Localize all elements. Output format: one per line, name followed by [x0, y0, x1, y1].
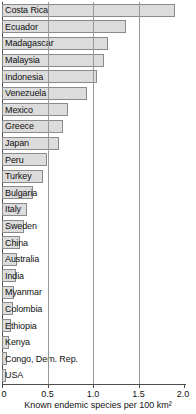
bar-category-label: Sweden: [5, 219, 37, 233]
x-tick-label: 2.0: [177, 389, 190, 399]
bar-series: Costa RicaEcuadorMadagascarMalaysiaIndon…: [2, 2, 186, 384]
bar-category-label: Venezuela: [5, 86, 46, 100]
bar-category-label: Colombia: [5, 302, 42, 316]
bar-row: Myanmar: [2, 284, 186, 301]
bar-row: Australia: [2, 251, 186, 268]
x-tick: [2, 384, 3, 388]
bar-category-label: China: [5, 236, 28, 250]
x-tick: [139, 384, 140, 388]
x-tick-label: 0.5: [41, 389, 54, 399]
bar-row: Ecuador: [2, 19, 186, 36]
bar-category-label: Kenya: [5, 335, 30, 349]
bar-category-label: Madagascar: [5, 36, 54, 50]
bar-row: USA: [2, 367, 186, 384]
bar-category-label: Congo, Dem. Rep.: [5, 352, 78, 366]
bar-row: China: [2, 234, 186, 251]
bar-row: Kenya: [2, 334, 186, 351]
bar-category-label: Ethiopia: [5, 319, 37, 333]
bar-category-label: Myanmar: [5, 285, 42, 299]
plot-area: Costa RicaEcuadorMadagascarMalaysiaIndon…: [2, 2, 186, 384]
bar-category-label: USA: [5, 368, 23, 382]
bar-row: Mexico: [2, 102, 186, 119]
bar-category-label: Bulgaria: [5, 186, 37, 200]
bar-category-label: Japan: [5, 136, 29, 150]
x-axis-line: [2, 384, 186, 385]
x-tick-label: 0: [1, 389, 6, 399]
bar-category-label: Costa Rica: [5, 3, 48, 17]
bar-row: Indonesia: [2, 68, 186, 85]
bar-category-label: India: [5, 269, 24, 283]
bar-category-label: Turkey: [5, 169, 32, 183]
x-tick: [184, 384, 185, 388]
bar-category-label: Italy: [5, 202, 21, 216]
bar-row: Greece: [2, 118, 186, 135]
bar-category-label: Mexico: [5, 103, 33, 117]
x-tick-label: 1.5: [132, 389, 145, 399]
bar-category-label: Ecuador: [5, 20, 38, 34]
bar-row: Peru: [2, 151, 186, 168]
endemic-species-bar-chart: Costa RicaEcuadorMadagascarMalaysiaIndon…: [0, 0, 196, 414]
bar-category-label: Greece: [5, 119, 34, 133]
bar-row: Japan: [2, 135, 186, 152]
bar-category-label: Peru: [5, 153, 24, 167]
bar-row: Malaysia: [2, 52, 186, 69]
x-tick-label: 1.0: [87, 389, 100, 399]
bar-row: Madagascar: [2, 35, 186, 52]
bar-row: Turkey: [2, 168, 186, 185]
bar-row: Congo, Dem. Rep.: [2, 350, 186, 367]
bar-row: India: [2, 268, 186, 285]
bar-row: Ethiopia: [2, 317, 186, 334]
bar-row: Sweden: [2, 218, 186, 235]
bar-row: Italy: [2, 201, 186, 218]
bar-category-label: Australia: [5, 252, 39, 266]
bar-row: Colombia: [2, 301, 186, 318]
x-axis-title: Known endemic species per 100 km²: [0, 400, 196, 410]
x-tick: [48, 384, 49, 388]
bar-row: Venezuela: [2, 85, 186, 102]
bar-row: Costa Rica: [2, 2, 186, 19]
bar-category-label: Indonesia: [5, 70, 43, 84]
x-tick: [93, 384, 94, 388]
bar-category-label: Malaysia: [5, 53, 40, 67]
bar-row: Bulgaria: [2, 185, 186, 202]
